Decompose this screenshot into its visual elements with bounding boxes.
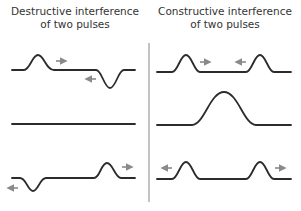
destructive-before-wave xyxy=(12,55,135,88)
constructive-after-wave xyxy=(157,162,291,179)
interference-diagram xyxy=(0,0,301,211)
constructive-overlap-wave xyxy=(157,92,291,125)
destructive-after-wave xyxy=(12,163,135,191)
constructive-before-wave xyxy=(157,55,291,72)
